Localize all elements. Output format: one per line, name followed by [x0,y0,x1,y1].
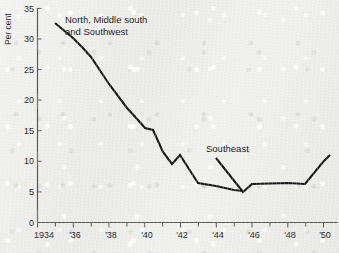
x-tick-label: '46 [248,230,260,240]
series-label-line1: North, Middle south [65,14,147,25]
annotation-southeast: Southeast [206,143,249,154]
y-axis-title: Per cent [3,13,13,45]
x-tick-label: 1934 [34,230,54,240]
x-tick-label: '38 [105,230,117,240]
chart-plot-area: Per cent 0 5 10 15 20 25 30 35 [0,0,339,253]
x-tick-label: '44 [212,230,224,240]
annotation-north-middle-south-southwest: North, Middle south and Southwest [65,14,147,37]
y-tick-label: 35 [24,4,34,14]
series-label-southeast: Southeast [206,143,249,154]
series-line-southeast [216,155,330,192]
y-tick-label: 0 [29,218,34,228]
y-tick-label: 15 [24,126,34,136]
x-tick-label: '36 [69,230,81,240]
x-tick-label: '42 [176,230,188,240]
y-tick-label: 25 [24,65,34,75]
x-axis-tick-labels: 1934 '36 '38 '40 '42 '44 '46 '48 '50 [34,230,331,240]
chart-figure: Per cent 0 5 10 15 20 25 30 35 [0,0,339,253]
y-tick-label: 20 [24,95,34,105]
series-label-line2: and Southwest [65,26,128,37]
x-tick-label: '40 [141,230,153,240]
y-axis-tick-labels: 0 5 10 15 20 25 30 35 [24,4,34,228]
y-tick-label: 30 [24,34,34,44]
y-tick-label: 10 [24,156,34,166]
x-tick-label: '50 [319,230,331,240]
y-tick-label: 5 [29,187,34,197]
x-axis-ticks [38,223,324,228]
x-tick-label: '48 [284,230,296,240]
series-line-north-middle-south-southwest [55,23,243,191]
